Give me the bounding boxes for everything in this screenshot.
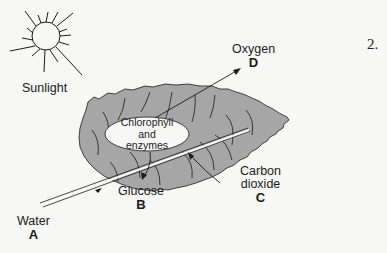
water-letter: A [17, 228, 50, 241]
carbon-dioxide-letter: C [240, 191, 281, 204]
oxygen-label: Oxygen D [232, 43, 275, 69]
center-label: Chlorophyll and enzymes [110, 117, 184, 152]
question-number: 2. [367, 36, 378, 53]
photosynthesis-diagram [0, 0, 387, 253]
sun-icon [10, 11, 82, 75]
water-label: Water A [17, 215, 50, 241]
oxygen-letter: D [232, 56, 275, 69]
center-line-3: enzymes [110, 140, 184, 152]
center-line-1: Chlorophyll [110, 117, 184, 129]
sunlight-label: Sunlight [22, 82, 67, 95]
glucose-letter: B [118, 198, 164, 211]
carbon-dioxide-label: Carbon dioxide C [240, 165, 281, 204]
glucose-label: Glucose B [118, 185, 164, 211]
